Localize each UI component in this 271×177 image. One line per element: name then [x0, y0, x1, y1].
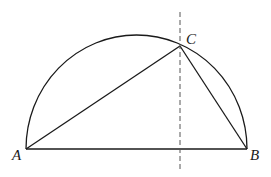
label-A: A [11, 147, 22, 163]
diagram-canvas: A B C [0, 0, 271, 177]
label-C: C [186, 31, 197, 47]
segment-AC [26, 46, 180, 149]
segment-BC [180, 46, 247, 149]
label-B: B [250, 147, 259, 163]
semicircle-diagram: A B C [0, 0, 271, 177]
semicircle-arc [26, 35, 247, 149]
